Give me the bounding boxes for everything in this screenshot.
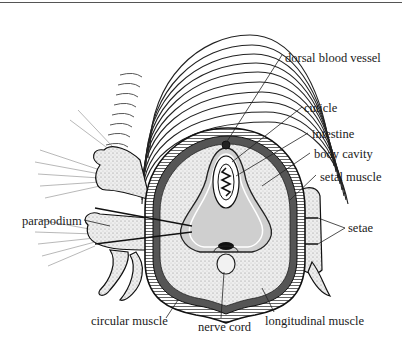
label-cuticle: cuticle <box>304 101 337 115</box>
label-circular-muscle: circular muscle <box>91 314 168 328</box>
label-intestine: intestine <box>312 127 354 141</box>
label-setal-muscle: setal muscle <box>320 170 381 184</box>
diagram-canvas: dorsal blood vessel cuticle intestine bo… <box>0 0 402 343</box>
left-parapodium <box>85 147 150 300</box>
label-body-cavity: body cavity <box>314 147 373 161</box>
label-nerve-cord: nerve cord <box>198 320 251 334</box>
nerve-cord-shape <box>217 254 235 274</box>
label-longitudinal-muscle: longitudinal muscle <box>265 314 364 328</box>
label-dorsal-blood-vessel: dorsal blood vessel <box>285 51 381 65</box>
label-parapodium: parapodium <box>22 214 82 228</box>
label-setae: setae <box>348 221 373 235</box>
receding-parapodia <box>104 73 142 157</box>
dorsal-vessel-shape <box>222 141 230 149</box>
